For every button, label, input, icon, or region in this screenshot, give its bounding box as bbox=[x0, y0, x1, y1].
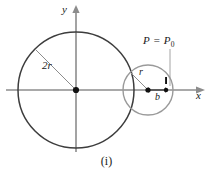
p0-label-subscript: 0 bbox=[171, 40, 175, 49]
small-radius-label: r bbox=[139, 67, 143, 77]
y-axis-arrow-icon bbox=[72, 5, 79, 13]
figure-caption: (i) bbox=[0, 155, 213, 167]
p0-label-p-base: P bbox=[164, 34, 171, 46]
p0-label-p: P bbox=[143, 34, 150, 46]
p0-point-label: P = P0 bbox=[143, 35, 175, 49]
x-axis-label: x bbox=[196, 90, 201, 101]
x-axis bbox=[6, 86, 205, 93]
geometry-figure: y x 2r r b P = P0 (i) bbox=[0, 0, 213, 177]
p0-tick-mark bbox=[165, 77, 167, 84]
big-radius-label: 2r bbox=[42, 60, 52, 71]
figure-canvas bbox=[0, 0, 213, 177]
y-axis-label: y bbox=[62, 4, 67, 15]
p0-label-equals: = bbox=[150, 34, 164, 46]
origin-dot bbox=[73, 87, 79, 93]
offset-label: b bbox=[155, 92, 160, 102]
y-axis bbox=[72, 5, 79, 152]
